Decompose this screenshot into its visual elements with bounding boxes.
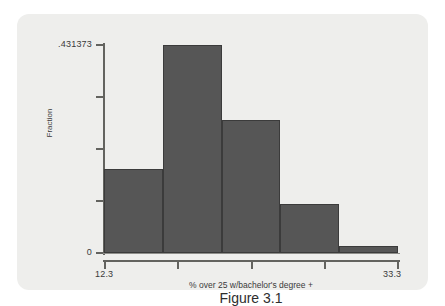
- x-axis-tick: [324, 262, 326, 269]
- histogram-bar: [104, 169, 163, 253]
- y-axis-tick: [96, 200, 104, 202]
- y-axis-title: Fraction: [45, 124, 54, 138]
- histogram-bar: [222, 120, 280, 253]
- plot-baseline: [103, 253, 400, 254]
- y-axis-tick: [96, 44, 104, 46]
- x-axis-tick-label-max: 33.3: [383, 269, 401, 279]
- histogram-bar: [280, 204, 339, 253]
- histogram-bar: [339, 246, 398, 253]
- x-axis-tick-label-min: 12.3: [95, 269, 113, 279]
- x-axis-tick: [104, 262, 106, 269]
- y-axis-tick-label-zero: 0: [39, 247, 92, 257]
- histogram-bar: [163, 45, 222, 253]
- figure-caption: Figure 3.1: [104, 290, 398, 306]
- x-axis-tick: [177, 262, 179, 269]
- plot-background-card: Fraction .431373 0 12.3 33.3 % over 25 w…: [17, 14, 428, 290]
- y-axis-tick: [96, 96, 104, 98]
- x-axis-title: % over 25 w/bachelor's degree +: [104, 280, 398, 290]
- x-axis-tick: [251, 262, 253, 269]
- y-axis-tick-label-max: .431373: [39, 39, 92, 49]
- plot-area: [104, 45, 398, 253]
- x-axis-tick: [397, 262, 399, 269]
- y-axis-tick: [96, 148, 104, 150]
